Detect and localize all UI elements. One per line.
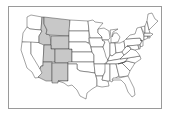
state-washington[interactable] bbox=[27, 15, 42, 30]
state-connecticut[interactable] bbox=[144, 36, 148, 40]
state-rhode-island[interactable] bbox=[148, 36, 150, 38]
state-massachusetts[interactable] bbox=[144, 33, 153, 36]
state-montana[interactable] bbox=[44, 17, 70, 36]
state-wyoming[interactable] bbox=[51, 36, 69, 49]
state-south-dakota[interactable] bbox=[69, 31, 89, 43]
state-kansas[interactable] bbox=[72, 52, 94, 62]
state-north-dakota[interactable] bbox=[69, 20, 89, 31]
state-nebraska[interactable] bbox=[69, 42, 92, 52]
state-newmexico[interactable] bbox=[52, 63, 68, 83]
us-map bbox=[0, 0, 171, 117]
state-michigan[interactable] bbox=[110, 29, 120, 43]
state-colorado[interactable] bbox=[55, 49, 72, 63]
state-maine[interactable] bbox=[147, 13, 158, 30]
state-florida[interactable] bbox=[112, 76, 135, 97]
